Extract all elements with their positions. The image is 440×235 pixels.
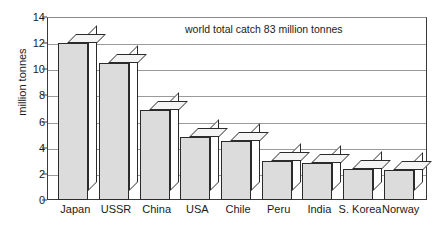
bar-peru	[262, 152, 301, 200]
y-tick-label: 14	[5, 11, 45, 23]
bar-front-face	[262, 161, 292, 200]
bar-chart: million tonnes 02468101214 world total c…	[0, 0, 440, 235]
x-tick-label: Peru	[267, 203, 290, 215]
bar-side-face	[88, 25, 97, 191]
x-tick-label: Japan	[60, 203, 90, 215]
bar-front-face	[99, 63, 129, 200]
x-tick-label: China	[142, 203, 171, 215]
bar-usa	[180, 128, 219, 200]
bar-china	[140, 101, 179, 200]
bar-s-korea	[343, 160, 382, 200]
bar-top-face	[149, 101, 188, 110]
x-tick-label: S. Korea	[339, 203, 382, 215]
bar-front-face	[58, 43, 88, 200]
x-tick-label: Norway	[382, 203, 419, 215]
y-tick-label: 4	[5, 142, 45, 154]
bar-top-face	[393, 161, 432, 170]
bar-front-face	[343, 169, 373, 200]
bar-chile	[221, 132, 260, 200]
bar-side-face	[373, 151, 382, 191]
bar-india	[302, 154, 341, 200]
x-tick-label: USA	[186, 203, 209, 215]
bar-ussr	[99, 54, 138, 200]
bar-norway	[384, 161, 423, 200]
bar-side-face	[129, 45, 138, 191]
bar-front-face	[384, 170, 414, 200]
bars-container	[47, 17, 427, 200]
bar-front-face	[221, 141, 251, 200]
bar-front-face	[140, 110, 170, 200]
bar-front-face	[302, 163, 332, 200]
y-tick-label: 6	[5, 116, 45, 128]
y-tick-label: 2	[5, 168, 45, 180]
bar-side-face	[414, 152, 423, 191]
bar-side-face	[332, 145, 341, 191]
y-tick-label: 8	[5, 89, 45, 101]
bar-top-face	[108, 54, 147, 63]
x-tick-label: Chile	[225, 203, 250, 215]
chart-annotation: world total catch 83 million tonnes	[185, 23, 343, 35]
bar-top-face	[67, 34, 106, 43]
x-tick-label: USSR	[101, 203, 132, 215]
x-tick-label: India	[307, 203, 331, 215]
bar-side-face	[292, 143, 301, 191]
y-tick-label: 0	[5, 194, 45, 206]
bar-front-face	[180, 137, 210, 200]
y-tick-label: 12	[5, 37, 45, 49]
bar-japan	[58, 34, 97, 200]
bar-top-face	[230, 132, 269, 141]
y-tick-label: 10	[5, 63, 45, 75]
